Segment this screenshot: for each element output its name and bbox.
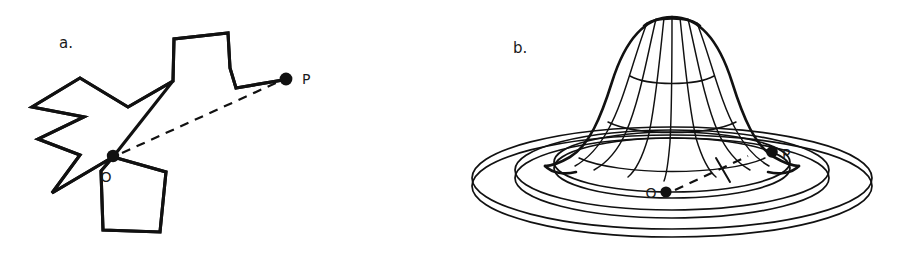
panel-a-drawing: O P a. (0, 0, 448, 257)
panel-a-label: a. (59, 34, 73, 52)
panel-b-label: b. (513, 39, 527, 57)
geodesic-tick-mark (716, 158, 730, 182)
point-p-label: P (302, 71, 310, 87)
figure-panel-a: O P a. (0, 0, 448, 257)
figure-panel-b: O P b. (448, 0, 897, 257)
bell-meridian-4 (680, 18, 716, 177)
bell-meridian-2 (628, 18, 664, 177)
irregular-polygon-outline (32, 33, 289, 232)
point-p-dot (766, 146, 778, 158)
bell-meridian-5 (688, 19, 750, 170)
point-p-dot (280, 73, 293, 86)
point-o-dot (660, 186, 671, 197)
bell-meridian-3 (664, 17, 672, 181)
bell-meridian-1 (594, 19, 656, 170)
point-o-dot (107, 150, 119, 162)
ground-ring-inner-1 (554, 138, 790, 198)
bell-lip-right (768, 166, 799, 173)
dashed-connector-o-to-p (675, 156, 748, 190)
figure-plate: O P a. (0, 0, 897, 257)
bell-lip-left (545, 166, 576, 173)
ground-ring-outer-2 (472, 127, 872, 229)
point-p-label: P (782, 146, 790, 162)
point-o-label: O (100, 169, 111, 185)
point-o-label: O (645, 185, 656, 201)
ground-ring-outer-1 (472, 135, 872, 237)
panel-b-drawing: O P b. (448, 0, 897, 257)
polygon-silhouette (32, 33, 289, 232)
